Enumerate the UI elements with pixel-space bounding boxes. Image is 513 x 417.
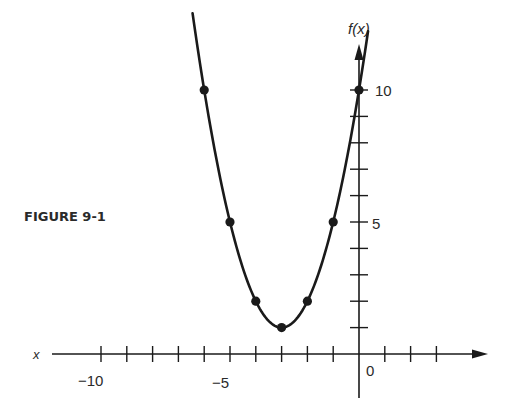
y-tick-label-10: 10 [375,82,392,99]
data-point-markers [200,85,364,332]
y-axis-arrow-icon [355,44,364,60]
data-point [200,85,209,94]
y-tick-label-5: 5 [372,215,380,232]
data-point [225,217,234,226]
x-axis [52,346,488,362]
chart-figure: FIGURE 9-1 x −10 −5 0 f(x) 5 10 [0,0,513,417]
data-point [303,297,312,306]
x-tick-label-neg5: −5 [212,374,229,391]
x-axis-label: x [32,347,40,362]
figure-caption: FIGURE 9-1 [24,209,106,224]
data-point [354,85,363,94]
data-point [251,297,260,306]
parabola-curve [193,13,368,327]
x-axis-arrow-icon [472,350,488,359]
x-tick-label-neg10: −10 [78,372,103,389]
data-point [277,323,286,332]
x-tick-label-0: 0 [366,362,374,379]
data-point [329,217,338,226]
